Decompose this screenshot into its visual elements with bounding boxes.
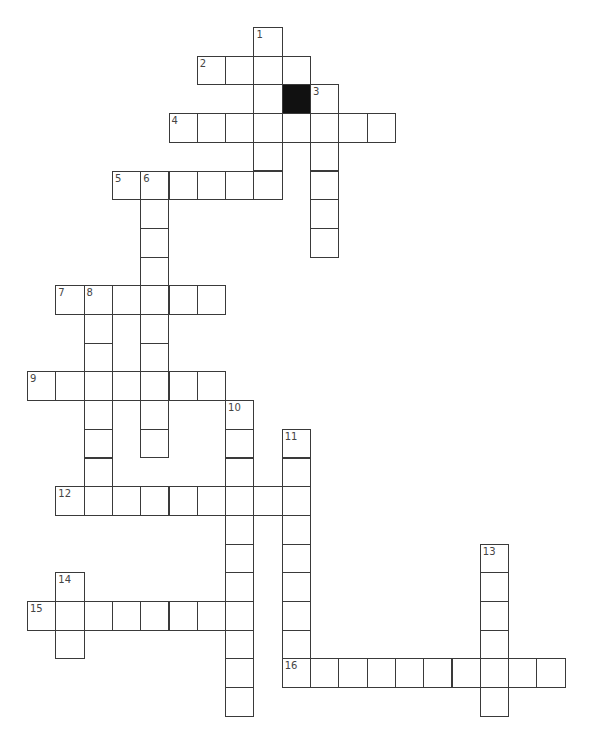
crossword-cell[interactable] xyxy=(140,314,169,344)
crossword-cell[interactable] xyxy=(225,515,254,545)
crossword-cell[interactable] xyxy=(169,171,198,201)
crossword-cell[interactable] xyxy=(367,113,396,143)
crossword-cell[interactable]: 4 xyxy=(169,113,198,143)
crossword-cell[interactable] xyxy=(197,171,226,201)
crossword-cell[interactable] xyxy=(480,601,509,631)
crossword-cell[interactable] xyxy=(253,84,282,114)
crossword-cell[interactable] xyxy=(310,113,339,143)
crossword-cell[interactable] xyxy=(225,658,254,688)
crossword-cell[interactable] xyxy=(536,658,565,688)
crossword-cell[interactable]: 16 xyxy=(282,658,311,688)
crossword-cell[interactable] xyxy=(225,429,254,459)
crossword-cell[interactable] xyxy=(84,314,113,344)
crossword-cell[interactable] xyxy=(197,486,226,516)
crossword-cell[interactable] xyxy=(112,486,141,516)
crossword-cell[interactable] xyxy=(225,544,254,574)
crossword-cell[interactable] xyxy=(140,343,169,373)
crossword-cell[interactable] xyxy=(197,113,226,143)
crossword-cell[interactable] xyxy=(508,658,537,688)
crossword-cell[interactable] xyxy=(225,113,254,143)
crossword-cell[interactable] xyxy=(55,601,84,631)
crossword-cell[interactable] xyxy=(282,572,311,602)
crossword-cell[interactable] xyxy=(282,458,311,488)
crossword-cell[interactable] xyxy=(395,658,424,688)
crossword-cell[interactable] xyxy=(253,56,282,86)
crossword-cell[interactable] xyxy=(225,630,254,660)
crossword-cell[interactable] xyxy=(140,199,169,229)
crossword-cell[interactable]: 3 xyxy=(310,84,339,114)
crossword-cell[interactable] xyxy=(225,486,254,516)
crossword-cell[interactable]: 1 xyxy=(253,27,282,57)
crossword-cell[interactable] xyxy=(169,601,198,631)
crossword-cell[interactable] xyxy=(140,371,169,401)
crossword-cell[interactable] xyxy=(140,601,169,631)
crossword-cell[interactable]: 6 xyxy=(140,171,169,201)
crossword-cell[interactable] xyxy=(84,343,113,373)
crossword-cell[interactable] xyxy=(55,630,84,660)
crossword-cell[interactable] xyxy=(112,601,141,631)
crossword-cell[interactable] xyxy=(84,371,113,401)
crossword-cell[interactable] xyxy=(423,658,452,688)
crossword-cell[interactable] xyxy=(282,544,311,574)
crossword-cell[interactable] xyxy=(84,458,113,488)
crossword-cell[interactable]: 9 xyxy=(27,371,56,401)
crossword-cell[interactable] xyxy=(338,113,367,143)
crossword-cell[interactable]: 7 xyxy=(55,285,84,315)
crossword-cell[interactable] xyxy=(55,371,84,401)
crossword-cell[interactable] xyxy=(197,601,226,631)
crossword-cell[interactable]: 13 xyxy=(480,544,509,574)
crossword-cell[interactable] xyxy=(367,658,396,688)
crossword-cell[interactable] xyxy=(310,228,339,258)
crossword-cell[interactable] xyxy=(253,486,282,516)
crossword-cell[interactable] xyxy=(282,601,311,631)
crossword-cell[interactable] xyxy=(225,601,254,631)
crossword-cell[interactable]: 15 xyxy=(27,601,56,631)
crossword-cell[interactable] xyxy=(282,630,311,660)
crossword-cell[interactable] xyxy=(140,257,169,287)
crossword-cell[interactable] xyxy=(480,658,509,688)
crossword-cell[interactable] xyxy=(169,285,198,315)
crossword-cell[interactable]: 2 xyxy=(197,56,226,86)
crossword-cell[interactable] xyxy=(225,56,254,86)
crossword-cell[interactable] xyxy=(452,658,481,688)
crossword-cell[interactable] xyxy=(169,371,198,401)
crossword-cell[interactable] xyxy=(310,171,339,201)
crossword-cell[interactable] xyxy=(112,285,141,315)
crossword-cell[interactable] xyxy=(112,371,141,401)
crossword-cell[interactable] xyxy=(140,486,169,516)
crossword-cell[interactable] xyxy=(480,630,509,660)
crossword-cell[interactable] xyxy=(140,285,169,315)
crossword-cell[interactable] xyxy=(225,687,254,717)
crossword-cell[interactable] xyxy=(84,601,113,631)
crossword-cell[interactable] xyxy=(84,400,113,430)
crossword-cell[interactable] xyxy=(225,171,254,201)
crossword-cell[interactable] xyxy=(253,113,282,143)
crossword-cell[interactable] xyxy=(225,572,254,602)
crossword-cell[interactable] xyxy=(310,658,339,688)
crossword-cell[interactable] xyxy=(282,515,311,545)
crossword-cell[interactable]: 12 xyxy=(55,486,84,516)
crossword-cell[interactable] xyxy=(480,687,509,717)
crossword-cell[interactable]: 11 xyxy=(282,429,311,459)
crossword-cell[interactable] xyxy=(140,429,169,459)
crossword-cell[interactable] xyxy=(140,400,169,430)
crossword-cell[interactable]: 8 xyxy=(84,285,113,315)
crossword-cell[interactable] xyxy=(140,228,169,258)
crossword-cell[interactable] xyxy=(84,429,113,459)
crossword-cell[interactable] xyxy=(338,658,367,688)
crossword-cell[interactable] xyxy=(282,56,311,86)
crossword-cell[interactable] xyxy=(197,285,226,315)
crossword-cell[interactable] xyxy=(310,199,339,229)
crossword-cell[interactable]: 14 xyxy=(55,572,84,602)
crossword-cell[interactable] xyxy=(253,142,282,172)
crossword-cell[interactable] xyxy=(253,171,282,201)
crossword-cell[interactable] xyxy=(282,486,311,516)
crossword-cell[interactable] xyxy=(310,142,339,172)
crossword-cell[interactable]: 10 xyxy=(225,400,254,430)
crossword-cell[interactable] xyxy=(84,486,113,516)
crossword-cell[interactable] xyxy=(197,371,226,401)
crossword-cell[interactable] xyxy=(480,572,509,602)
crossword-cell[interactable] xyxy=(225,458,254,488)
crossword-cell[interactable]: 5 xyxy=(112,171,141,201)
crossword-cell[interactable] xyxy=(282,113,311,143)
